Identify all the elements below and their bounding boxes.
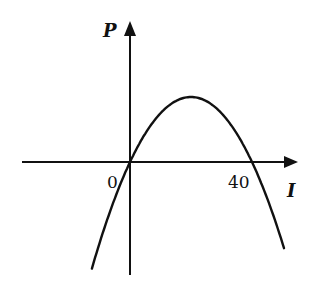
- y-axis-label: P: [103, 22, 117, 40]
- origin-label: 0: [107, 174, 118, 191]
- x-axis-arrow-icon: [284, 156, 298, 168]
- y-axis-arrow-icon: [124, 21, 136, 36]
- parabola-curve: [92, 97, 284, 269]
- x-axis-label: I: [287, 182, 295, 200]
- parabola-chart: [0, 0, 318, 300]
- root-tick-label: 40: [228, 174, 250, 191]
